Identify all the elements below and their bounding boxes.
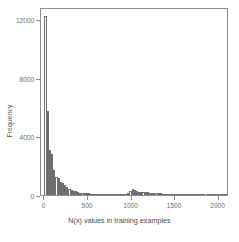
x-axis-tick-label: 1500 <box>167 202 181 209</box>
x-axis-tick-label: 2000 <box>210 202 224 209</box>
x-axis-tick <box>174 196 175 200</box>
x-axis-tick-label: 1000 <box>123 202 137 209</box>
y-axis-tick-label: 12000 <box>16 16 34 23</box>
x-axis-tick <box>87 196 88 200</box>
x-axis-tick-label: 0 <box>42 202 46 209</box>
y-axis-tick-label: 8000 <box>20 75 34 82</box>
y-axis-title: Frequency <box>6 91 13 151</box>
y-axis-tick-label: 4000 <box>20 134 34 141</box>
x-axis-tick <box>131 196 132 200</box>
x-axis-tick <box>218 196 219 200</box>
histogram-bar <box>225 194 227 195</box>
histogram-bars <box>41 9 227 195</box>
x-axis: N(x) values in training examples 0500100… <box>0 196 239 242</box>
x-axis-title: N(x) values in training examples <box>0 216 239 225</box>
x-axis-tick <box>43 196 44 200</box>
x-axis-tick-label: 500 <box>82 202 93 209</box>
histogram-chart: Frequency 04000800012000 N(x) values in … <box>0 0 239 242</box>
plot-area <box>40 8 228 196</box>
